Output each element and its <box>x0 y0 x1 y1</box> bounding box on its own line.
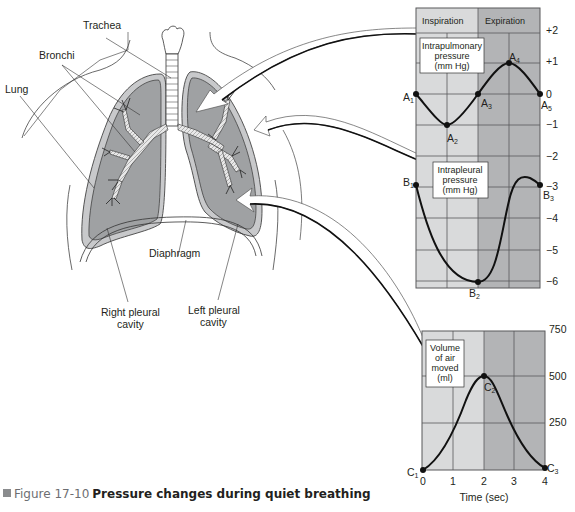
figure-caption: Figure 17-10Pressure changes during quie… <box>3 487 371 501</box>
body-side-left <box>67 185 72 270</box>
point-B1: B <box>403 176 410 188</box>
phase-expiration: Expiration <box>485 16 525 26</box>
label-right-pleural: Right pleural <box>101 306 160 318</box>
point-A4: A <box>509 51 516 63</box>
svg-text:B2: B2 <box>469 287 480 300</box>
body-side-right <box>273 180 278 270</box>
svg-text:4: 4 <box>542 475 548 487</box>
svg-text:A1: A1 <box>403 91 414 104</box>
time-axis-label: Time (sec) <box>459 491 508 503</box>
left-pleural-leader <box>218 224 238 300</box>
caption-square-icon <box>3 489 11 497</box>
svg-text:pressure: pressure <box>434 51 469 61</box>
svg-text:250: 250 <box>549 416 567 428</box>
svg-text:0: 0 <box>546 88 552 100</box>
svg-text:+1: +1 <box>546 55 558 67</box>
intrapulmonary-box: Intrapulmonary pressure (mm Hg) <box>420 38 484 73</box>
time-axis: 0 1 2 3 4 Time (sec) <box>420 475 548 503</box>
svg-text:Intrapulmonary: Intrapulmonary <box>422 41 483 51</box>
pressure-chart: Inspiration Expiration A1 A2 A3 A4 A5 B1… <box>403 8 558 300</box>
svg-text:Intrapleural: Intrapleural <box>437 165 482 175</box>
lung-leader <box>20 96 94 188</box>
volume-axis: 750 500 250 <box>549 323 567 428</box>
label-lung: Lung <box>5 83 29 95</box>
svg-text:3: 3 <box>511 475 517 487</box>
svg-text:−4: −4 <box>546 212 558 224</box>
svg-text:0: 0 <box>420 475 426 487</box>
svg-text:500: 500 <box>549 370 567 382</box>
svg-text:−3: −3 <box>546 180 558 192</box>
svg-text:−1: −1 <box>546 118 558 130</box>
svg-text:−6: −6 <box>546 275 558 287</box>
label-right-pleural-2: cavity <box>117 318 145 330</box>
svg-text:−5: −5 <box>546 244 558 256</box>
label-bronchi: Bronchi <box>39 49 75 61</box>
pressure-axis: +2 +1 0 −1 −2 −3 −4 −5 −6 <box>546 24 558 287</box>
label-diaphragm: Diaphragm <box>149 247 201 259</box>
svg-text:1: 1 <box>450 475 456 487</box>
label-left-pleural: Left pleural <box>188 304 240 316</box>
svg-text:−2: −2 <box>546 150 558 162</box>
point-A3: A <box>481 97 488 109</box>
point-B2: B <box>469 287 476 299</box>
figure-canvas: Trachea Bronchi Lung Diaphragm Right ple… <box>0 0 575 512</box>
svg-text:C1: C1 <box>407 466 419 479</box>
label-left-pleural-2: cavity <box>200 316 228 328</box>
figure-number: Figure 17-10 <box>14 487 89 501</box>
svg-text:2: 2 <box>481 475 487 487</box>
volume-chart: C1 C2 C3 750 500 250 0 1 2 3 4 Time (sec… <box>407 323 567 503</box>
svg-text:+2: +2 <box>546 24 558 36</box>
point-A1: A <box>403 91 410 103</box>
svg-text:pressure: pressure <box>442 175 477 185</box>
phase-inspiration: Inspiration <box>422 16 464 26</box>
label-trachea: Trachea <box>83 19 121 31</box>
point-A2: A <box>447 132 454 144</box>
point-A5: A <box>541 99 548 111</box>
svg-text:of air: of air <box>435 353 455 363</box>
volume-box: Volume of air moved (ml) <box>426 340 464 387</box>
larynx <box>162 26 184 54</box>
svg-text:C3: C3 <box>547 462 559 475</box>
intrapleural-box: Intrapleural pressure (mm Hg) <box>433 162 488 198</box>
arrow-volume-icon <box>236 188 424 348</box>
svg-text:B1: B1 <box>403 176 414 189</box>
svg-text:A5: A5 <box>541 99 552 112</box>
arrow-intrapleural-icon <box>254 115 418 160</box>
svg-text:(mm Hg): (mm Hg) <box>435 61 470 71</box>
figure-title: Pressure changes during quiet breathing <box>92 487 370 501</box>
svg-text:moved: moved <box>431 363 458 373</box>
svg-text:Volume: Volume <box>430 343 460 353</box>
svg-text:(mm Hg): (mm Hg) <box>443 185 478 195</box>
svg-text:750: 750 <box>549 323 567 335</box>
svg-text:(ml): (ml) <box>437 373 453 383</box>
